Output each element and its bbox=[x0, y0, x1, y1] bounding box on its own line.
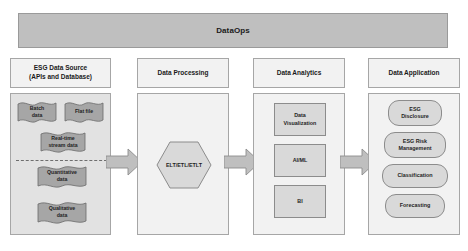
flag-real-time-stream-data: Real-time stream data bbox=[40, 129, 86, 155]
real-time-stream-data-line1: Real-time bbox=[51, 135, 74, 141]
batch-data-line2: data bbox=[32, 112, 43, 118]
node-forecasting: Forecasting bbox=[385, 194, 445, 218]
esg-data-source-header-line1: ESG Data Source bbox=[34, 64, 87, 71]
real-time-stream-data-line2: stream data bbox=[48, 142, 77, 148]
column-body-data-analytics: Data Visualization AI/ML BI bbox=[253, 93, 345, 235]
node-bi-label: BI bbox=[295, 198, 304, 205]
data-visualization-line2: Visualization bbox=[284, 120, 317, 126]
column-header-data-analytics: Data Analytics bbox=[253, 58, 345, 88]
node-ai-ml: AI/ML bbox=[274, 144, 326, 177]
batch-data-line1: Batch bbox=[30, 105, 44, 111]
flag-flat-file: Flat file bbox=[64, 99, 104, 125]
node-esg-disclosure-label: ESG Disclosure bbox=[398, 106, 432, 120]
flag-qualitative-data-label: Qualitative data bbox=[49, 205, 76, 220]
column-header-data-processing-label: Data Processing bbox=[156, 69, 211, 78]
dataops-banner: DataOps bbox=[18, 13, 448, 48]
data-visualization-line1: Data bbox=[294, 112, 306, 118]
column-header-data-application: Data Application bbox=[368, 58, 460, 88]
flag-batch-data-label: Batch data bbox=[30, 105, 44, 120]
flag-flat-file-label: Flat file bbox=[75, 108, 93, 116]
node-data-visualization-label: Data Visualization bbox=[282, 112, 319, 127]
esg-dataops-architecture-diagram: DataOps ESG Data Source (APIs and Databa… bbox=[0, 0, 468, 251]
esg-disclosure-line2: Disclosure bbox=[401, 113, 429, 119]
node-forecasting-label: Forecasting bbox=[397, 202, 434, 209]
node-esg-disclosure: ESG Disclosure bbox=[388, 100, 442, 126]
dataops-banner-label: DataOps bbox=[216, 26, 250, 35]
flag-real-time-stream-data-label: Real-time stream data bbox=[48, 135, 77, 150]
esg-data-source-header-line2: (APIs and Database) bbox=[29, 73, 92, 80]
column-header-data-processing: Data Processing bbox=[137, 58, 229, 88]
qualitative-data-line1: Qualitative bbox=[49, 205, 76, 211]
node-ai-ml-label: AI/ML bbox=[291, 157, 310, 164]
esg-risk-management-line2: Management bbox=[399, 145, 432, 151]
quantitative-data-line2: data bbox=[57, 176, 68, 182]
hexagon-elt-etl-etlt-label: ELT/ETL/ETLT bbox=[166, 162, 202, 168]
node-classification-label: Classification bbox=[394, 172, 435, 179]
node-esg-risk-management: ESG Risk Management bbox=[384, 132, 446, 158]
esg-risk-management-line1: ESG Risk bbox=[403, 138, 427, 144]
flag-qualitative-data: Qualitative data bbox=[37, 199, 87, 226]
column-body-data-application: ESG Disclosure ESG Risk Management Class… bbox=[368, 93, 460, 235]
column-header-esg-data-source: ESG Data Source (APIs and Database) bbox=[10, 58, 111, 88]
flag-batch-data: Batch data bbox=[17, 99, 57, 125]
qualitative-data-line2: data bbox=[57, 212, 68, 218]
column-header-data-application-label: Data Application bbox=[386, 69, 441, 78]
node-bi: BI bbox=[274, 185, 326, 218]
quantitative-data-line1: Quantitative bbox=[47, 169, 77, 175]
flag-quantitative-data: Quantitative data bbox=[37, 163, 87, 190]
data-type-divider bbox=[16, 160, 107, 161]
column-body-esg-data-source: Batch data Flat file Real-time stream da… bbox=[10, 93, 111, 235]
esg-disclosure-line1: ESG bbox=[409, 106, 420, 112]
column-body-data-processing: ELT/ETL/ETLT bbox=[137, 93, 229, 235]
node-classification: Classification bbox=[382, 164, 448, 188]
column-header-data-analytics-label: Data Analytics bbox=[275, 69, 324, 78]
column-header-esg-data-source-label: ESG Data Source (APIs and Database) bbox=[27, 64, 94, 82]
hexagon-elt-etl-etlt: ELT/ETL/ETLT bbox=[156, 141, 212, 189]
flag-quantitative-data-label: Quantitative data bbox=[47, 169, 77, 184]
node-data-visualization: Data Visualization bbox=[274, 103, 326, 136]
node-esg-risk-management-label: ESG Risk Management bbox=[396, 138, 435, 152]
